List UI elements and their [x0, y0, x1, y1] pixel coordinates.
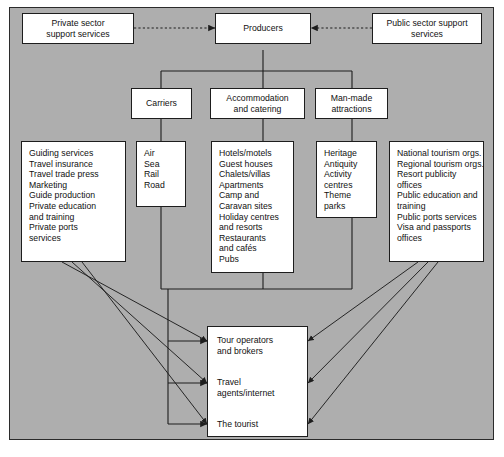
list-item: Activity — [324, 169, 376, 180]
list-item: Guiding services — [29, 148, 125, 159]
list-item: Rail — [144, 169, 185, 180]
box-carriers[interactable]: Carriers — [131, 88, 192, 119]
list-item: Public education and — [397, 190, 483, 201]
list-item: Resort publicity — [397, 169, 483, 180]
private-support-line-1: Private sector — [51, 18, 104, 28]
box-man-made-attractions[interactable]: Man-made attractions — [315, 88, 388, 119]
list-item: training — [397, 201, 483, 212]
tourist-line-1: The tourist — [217, 419, 303, 430]
list-item: services — [29, 233, 125, 244]
carriers-label: Carriers — [146, 98, 177, 109]
box-accommodation-and-catering[interactable]: Accommodation and catering — [210, 88, 305, 119]
accommodation-line-1: Accommodation — [226, 93, 288, 103]
box-accommodation-items-list[interactable]: Hotels/motels Guest houses Chalets/villa… — [211, 141, 294, 273]
list-item: Private ports — [29, 222, 125, 233]
list-item: National tourism orgs. — [397, 148, 483, 159]
list-item: Travel insurance — [29, 159, 125, 170]
list-item: Private education — [29, 201, 125, 212]
tour-operators-line-1: Tour operators — [217, 335, 303, 346]
tour-operators-line-2: and brokers — [217, 346, 303, 357]
list-item: and cafés — [219, 243, 293, 254]
box-private-sector-support[interactable]: Private sector support services — [22, 13, 134, 44]
box-public-services-list[interactable]: National tourism orgs. Regional tourism … — [389, 141, 484, 262]
list-item: centres — [324, 180, 376, 191]
group-travel-agents: Travel agents/internet — [217, 377, 303, 399]
list-item: Guide production — [29, 190, 125, 201]
list-item: Visa and passports — [397, 222, 483, 233]
travel-agents-line-2: agents/internet — [217, 388, 303, 399]
list-item: Road — [144, 180, 185, 191]
producers-label: Producers — [243, 23, 283, 34]
public-support-line-2: services — [411, 29, 443, 39]
list-item: offices — [397, 233, 483, 244]
public-support-line-1: Public sector support — [386, 18, 467, 28]
list-item: offices — [397, 180, 483, 191]
list-item: and resorts — [219, 222, 293, 233]
list-item: Restaurants — [219, 233, 293, 244]
diagram-canvas: Private sector support services Producer… — [0, 0, 504, 457]
list-item: Theme — [324, 190, 376, 201]
list-item: Regional tourism orgs. — [397, 159, 483, 170]
list-item: Apartments — [219, 180, 293, 191]
list-item: Caravan sites — [219, 201, 293, 212]
list-item: Sea — [144, 159, 185, 170]
box-attractions-items-list[interactable]: Heritage Antiquity Activity centres Them… — [316, 141, 377, 218]
list-item: Hotels/motels — [219, 148, 293, 159]
list-item: Chalets/villas — [219, 169, 293, 180]
list-item: parks — [324, 201, 376, 212]
box-private-services-list[interactable]: Guiding services Travel insurance Travel… — [21, 141, 126, 262]
list-item: Guest houses — [219, 159, 293, 170]
group-tour-operators: Tour operators and brokers — [217, 335, 303, 357]
list-item: Camp and — [219, 190, 293, 201]
travel-agents-line-1: Travel — [217, 377, 303, 388]
list-item: Public ports services — [397, 212, 483, 223]
list-item: Holiday centres — [219, 212, 293, 223]
list-item: Air — [144, 148, 185, 159]
box-carrier-modes-list[interactable]: Air Sea Rail Road — [136, 141, 186, 207]
manmade-line-1: Man-made — [331, 93, 373, 103]
list-item: Heritage — [324, 148, 376, 159]
list-item: Antiquity — [324, 159, 376, 170]
box-public-sector-support[interactable]: Public sector support services — [372, 13, 482, 44]
accommodation-line-2: and catering — [234, 104, 282, 114]
private-support-line-2: support services — [46, 29, 109, 39]
box-producers[interactable]: Producers — [215, 13, 311, 44]
list-item: and training — [29, 212, 125, 223]
list-item: Pubs — [219, 254, 293, 265]
group-tourist: The tourist — [217, 419, 303, 430]
manmade-line-2: attractions — [331, 104, 371, 114]
box-demand-side[interactable]: Tour operators and brokers Travel agents… — [207, 326, 308, 437]
list-item: Travel trade press — [29, 169, 125, 180]
list-item: Marketing — [29, 180, 125, 191]
